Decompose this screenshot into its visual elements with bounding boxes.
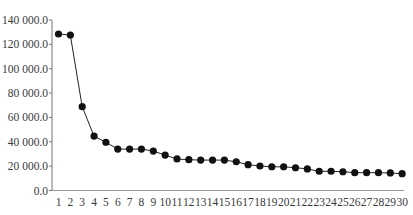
data-point-marker [90, 132, 97, 139]
data-point-marker [150, 147, 157, 154]
x-tick-label: 24 [325, 196, 337, 208]
data-point-marker [327, 168, 334, 175]
data-point-marker [292, 164, 299, 171]
data-point-marker [162, 151, 169, 158]
x-tick-label: 23 [313, 196, 325, 208]
data-point-marker [221, 156, 228, 163]
y-tick-label: 60 000.0 [8, 111, 49, 123]
x-tick-label: 22 [302, 196, 314, 208]
x-tick-label: 3 [79, 196, 85, 208]
x-tick-label: 17 [242, 196, 254, 208]
x-tick-label: 2 [67, 196, 73, 208]
data-series [55, 30, 406, 177]
line-chart: 0.020 000.040 000.060 000.080 000.0100 0… [0, 0, 413, 215]
data-point-marker [114, 145, 121, 152]
x-tick-label: 8 [139, 196, 145, 208]
x-tick-label: 12 [183, 196, 195, 208]
data-point-marker [256, 162, 263, 169]
data-point-marker [316, 168, 323, 175]
data-point-marker [102, 139, 109, 146]
data-point-marker [126, 145, 133, 152]
y-tick-label: 140 000.0 [2, 14, 48, 26]
y-tick-label: 40 000.0 [8, 136, 49, 148]
y-tick-label: 100 000.0 [2, 63, 48, 75]
y-tick-label: 0.0 [34, 185, 49, 197]
x-tick-label: 9 [150, 196, 156, 208]
x-tick-label: 6 [115, 196, 121, 208]
data-point-marker [339, 168, 346, 175]
x-tick-label: 16 [231, 196, 243, 208]
x-tick-label: 4 [91, 196, 97, 208]
x-tick-label: 21 [290, 196, 302, 208]
data-point-marker [351, 169, 358, 176]
x-tick-label: 15 [219, 196, 231, 208]
x-tick-label: 29 [385, 196, 397, 208]
data-point-marker [173, 155, 180, 162]
data-point-marker [304, 165, 311, 172]
y-tick-label: 80 000.0 [8, 87, 49, 99]
data-point-marker [268, 163, 275, 170]
x-tick-label: 18 [254, 196, 266, 208]
x-tick-label: 27 [361, 196, 373, 208]
data-point-marker [138, 145, 145, 152]
x-tick-label: 25 [337, 196, 349, 208]
x-tick-label: 10 [159, 196, 171, 208]
x-tick-label: 20 [278, 196, 290, 208]
x-tick-label: 30 [396, 196, 408, 208]
data-point-marker [363, 169, 370, 176]
data-point-marker [375, 169, 382, 176]
x-axis: 1234567891011121314151617181920212223242… [52, 191, 408, 209]
data-point-marker [387, 169, 394, 176]
data-point-marker [55, 30, 62, 37]
data-point-marker [233, 158, 240, 165]
data-point-marker [245, 161, 252, 168]
x-tick-label: 7 [127, 196, 133, 208]
x-tick-label: 13 [195, 196, 207, 208]
y-tick-label: 120 000.0 [2, 38, 48, 50]
x-tick-label: 19 [266, 196, 278, 208]
data-point-marker [185, 156, 192, 163]
x-tick-label: 5 [103, 196, 109, 208]
data-point-marker [79, 103, 86, 110]
data-point-marker [67, 31, 74, 38]
x-tick-label: 26 [349, 196, 361, 208]
x-tick-label: 1 [56, 196, 62, 208]
x-tick-label: 11 [171, 196, 182, 208]
data-point-marker [197, 156, 204, 163]
y-tick-label: 20 000.0 [8, 160, 49, 172]
data-point-marker [209, 156, 216, 163]
x-tick-label: 14 [207, 196, 219, 208]
y-axis: 0.020 000.040 000.060 000.080 000.0100 0… [2, 14, 52, 197]
data-point-marker [280, 163, 287, 170]
x-tick-label: 28 [373, 196, 385, 208]
data-point-marker [399, 170, 406, 177]
